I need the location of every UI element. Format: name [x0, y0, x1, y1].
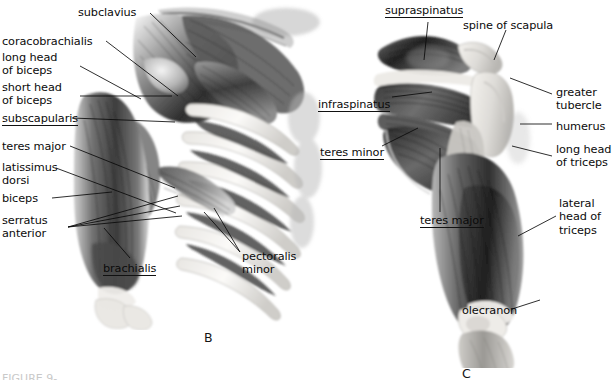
label-greater-tubercle-line2: tubercle	[556, 99, 602, 112]
label-coracobrachialis-line1: coracobrachialis	[2, 35, 93, 48]
label-supraspinatus: supraspinatus	[385, 4, 463, 18]
label-supraspinatus-line1: supraspinatus	[385, 4, 463, 17]
label-greater-tubercle: greater tubercle	[556, 86, 602, 113]
label-subclavius-line1: subclavius	[78, 6, 136, 19]
label-pectoralis-minor-line1: pectoralis	[242, 250, 296, 263]
label-serratus-anterior: serratus anterior	[2, 214, 48, 241]
label-long-head-triceps-line2: of triceps	[556, 156, 611, 169]
label-biceps: biceps	[2, 192, 38, 205]
panel-letter-c: C	[462, 366, 471, 380]
label-long-head-line1: long head	[2, 51, 57, 64]
label-biceps-line1: biceps	[2, 192, 38, 205]
label-subscapularis-line1: subscapularis	[2, 112, 78, 125]
label-olecranon-line1: olecranon	[462, 304, 517, 317]
panel-b-illustration	[40, 0, 330, 330]
label-subscapularis: subscapularis	[2, 112, 78, 126]
label-latissimus-line1: latissimus	[2, 161, 58, 174]
label-lateral-head-of-triceps: lateral head of triceps	[559, 197, 601, 237]
label-spine-of-scapula-line1: spine of scapula	[463, 19, 553, 32]
label-pectoralis-minor-line2: minor	[242, 263, 296, 276]
label-latissimus-dorsi: latissimus dorsi	[2, 161, 58, 188]
label-lateral-head-line2: head of	[559, 210, 601, 223]
label-subclavius: subclavius	[78, 6, 136, 19]
label-greater-tubercle-line1: greater	[556, 86, 602, 99]
label-infraspinatus-line1: infraspinatus	[318, 98, 390, 111]
label-coracobrachialis: coracobrachialis	[2, 35, 93, 48]
label-brachialis-line1: brachialis	[103, 262, 156, 275]
figure-canvas: subclavius coracobrachialis long head of…	[0, 0, 612, 380]
label-long-head-triceps-line1: long head	[556, 143, 611, 156]
label-teres-minor: teres minor	[320, 146, 384, 160]
label-teres-major-b: teres major	[2, 140, 66, 153]
label-long-head-line2: of biceps	[2, 64, 57, 77]
label-teres-major-c: teres major	[420, 214, 484, 228]
label-pectoralis-minor: pectoralis minor	[242, 250, 296, 277]
label-infraspinatus: infraspinatus	[318, 98, 390, 112]
label-short-head-line2: of biceps	[2, 94, 62, 107]
figure-caption-cutoff: FIGURE 9-	[2, 372, 122, 380]
label-long-head-of-triceps: long head of triceps	[556, 143, 611, 170]
label-teres-major-c-line1: teres major	[420, 214, 484, 227]
label-olecranon: olecranon	[462, 304, 517, 317]
label-humerus-line1: humerus	[556, 120, 605, 133]
label-latissimus-line2: dorsi	[2, 174, 58, 187]
label-long-head-of-biceps: long head of biceps	[2, 51, 57, 78]
label-serratus-line1: serratus	[2, 214, 48, 227]
label-spine-of-scapula: spine of scapula	[463, 19, 553, 32]
label-teres-major-b-line1: teres major	[2, 140, 66, 153]
label-teres-minor-line1: teres minor	[320, 146, 384, 159]
label-serratus-line2: anterior	[2, 227, 48, 240]
label-short-head-line1: short head	[2, 81, 62, 94]
label-lateral-head-line1: lateral	[559, 197, 601, 210]
panel-letter-b: B	[204, 330, 213, 345]
label-humerus: humerus	[556, 120, 605, 133]
label-short-head-of-biceps: short head of biceps	[2, 81, 62, 108]
label-brachialis: brachialis	[103, 262, 156, 276]
label-lateral-head-line3: triceps	[559, 224, 601, 237]
